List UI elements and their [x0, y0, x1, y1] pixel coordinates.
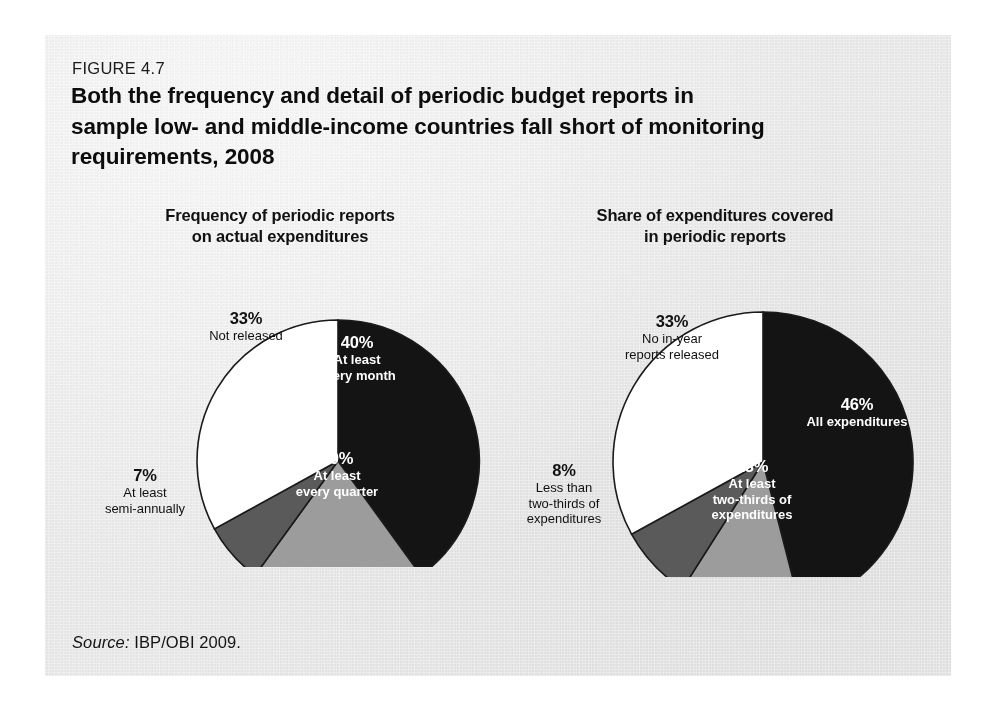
pie-label-at-least-semi-annually-line-2: semi-annually: [75, 501, 215, 517]
pie-label-less-than-two-thirds-line-1: Less than: [489, 480, 639, 496]
pie-label-at-least-every-quarter: 20% At least every quarter: [257, 448, 417, 499]
source-line: Source: IBP/OBI 2009.: [72, 633, 241, 652]
pie-label-at-least-semi-annually-line-1: At least: [75, 485, 215, 501]
chart-panel-frequency: Frequency of periodic reports on actual …: [65, 205, 495, 567]
pie-label-less-than-two-thirds-line-3: expenditures: [489, 511, 639, 527]
chart-title-share: Share of expenditures covered in periodi…: [495, 205, 935, 247]
pie-chart-frequency: 40% At least every month 20% At least ev…: [65, 247, 495, 567]
pie-label-less-than-two-thirds-line-2: two-thirds of: [489, 496, 639, 512]
chart-title-frequency: Frequency of periodic reports on actual …: [65, 205, 495, 247]
pie-label-at-least-semi-annually: 7% At least semi-annually: [75, 465, 215, 516]
chart-title-share-line-1: Share of expenditures covered: [495, 205, 935, 226]
source-value: IBP/OBI 2009.: [130, 633, 241, 651]
pie-label-less-than-two-thirds: 8% Less than two-thirds of expenditures: [489, 460, 639, 527]
figure-title-line-2: sample low- and middle-income countries …: [71, 112, 731, 143]
chart-title-share-line-2: in periodic reports: [495, 226, 935, 247]
pie-label-no-in-year-reports-released-line-1: No in-year: [587, 331, 757, 347]
pie-label-at-least-every-quarter-pct: 20%: [257, 448, 417, 468]
pie-label-all-expenditures: 46% All expenditures: [772, 394, 942, 430]
chart-title-frequency-line-2: on actual expenditures: [65, 226, 495, 247]
pie-label-not-released-pct: 33%: [171, 308, 321, 328]
pie-label-at-least-every-quarter-line-2: every quarter: [257, 484, 417, 500]
pie-label-no-in-year-reports-released-line-2: reports released: [587, 347, 757, 363]
pie-label-not-released: 33% Not released: [171, 308, 321, 344]
chart-title-frequency-line-1: Frequency of periodic reports: [65, 205, 495, 226]
pie-label-at-least-two-thirds: 13% At least two-thirds of expenditures: [678, 456, 826, 523]
pie-label-at-least-two-thirds-line-1: At least: [678, 476, 826, 492]
figure-title-line-3: requirements, 2008: [71, 142, 731, 173]
pie-label-at-least-every-month-line-2: every month: [287, 368, 427, 384]
pie-label-no-in-year-reports-released-pct: 33%: [587, 311, 757, 331]
pie-label-at-least-two-thirds-pct: 13%: [678, 456, 826, 476]
scanned-page: FIGURE 4.7 Both the frequency and detail…: [45, 35, 951, 676]
chart-panel-share: Share of expenditures covered in periodi…: [495, 205, 935, 577]
source-label: Source:: [72, 633, 130, 651]
pie-label-at-least-two-thirds-line-3: expenditures: [678, 507, 826, 523]
pie-label-at-least-every-month-line-1: At least: [287, 352, 427, 368]
pie-label-not-released-line-1: Not released: [171, 328, 321, 344]
figure-title: Both the frequency and detail of periodi…: [71, 81, 731, 173]
pie-svg-frequency: [65, 247, 495, 567]
pie-label-all-expenditures-line-1: All expenditures: [772, 414, 942, 430]
pie-label-less-than-two-thirds-pct: 8%: [489, 460, 639, 480]
pie-slice-all-expenditures: [763, 312, 913, 577]
pie-label-no-in-year-reports-released: 33% No in-year reports released: [587, 311, 757, 362]
pie-label-all-expenditures-pct: 46%: [772, 394, 942, 414]
pie-label-at-least-semi-annually-pct: 7%: [75, 465, 215, 485]
figure-title-line-1: Both the frequency and detail of periodi…: [71, 81, 731, 112]
pie-label-at-least-every-quarter-line-1: At least: [257, 468, 417, 484]
pie-chart-share: 46% All expenditures 13% At least two-th…: [495, 247, 935, 577]
pie-label-at-least-two-thirds-line-2: two-thirds of: [678, 492, 826, 508]
figure-number-label: FIGURE 4.7: [72, 59, 165, 78]
